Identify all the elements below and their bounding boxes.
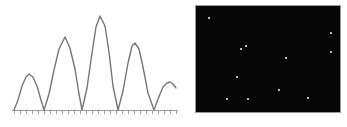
figure-root	[0, 0, 347, 127]
star-point	[307, 97, 309, 99]
waveform-svg	[0, 0, 180, 127]
star-point	[285, 57, 287, 59]
axis-ticks	[15, 111, 177, 114]
star-point	[208, 17, 210, 19]
star-point	[330, 51, 332, 53]
starfield-panel	[195, 5, 341, 113]
star-point	[278, 89, 280, 91]
star-point	[247, 98, 249, 100]
waveform-panel	[0, 0, 180, 127]
star-point	[236, 76, 238, 78]
star-point	[226, 98, 228, 100]
star-point	[245, 45, 247, 47]
star-point	[240, 48, 242, 50]
waveform-curve	[14, 16, 176, 110]
star-point	[330, 32, 332, 34]
